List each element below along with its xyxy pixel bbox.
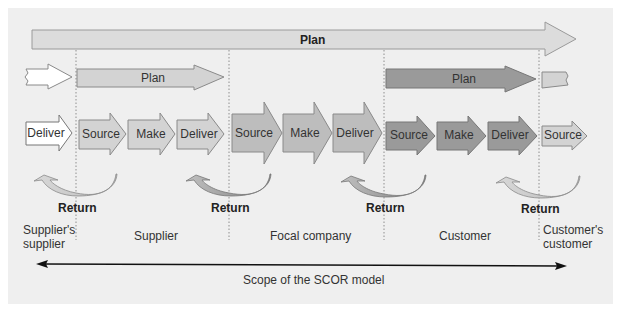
top-plan-label: Plan	[300, 33, 325, 47]
zone-label-suppliers-supplier: Supplier's	[23, 223, 75, 237]
plan-stub-right	[542, 72, 568, 88]
svg-text:Plan: Plan	[452, 72, 476, 86]
zone-label-customers-customer: Customer's	[543, 223, 603, 237]
svg-text:Source: Source	[235, 126, 273, 140]
scope-label: Scope of the SCOR model	[243, 273, 384, 287]
svg-text:Deliver: Deliver	[27, 126, 64, 140]
diagram-background	[8, 8, 613, 304]
svg-text:Make: Make	[444, 128, 474, 142]
svg-text:customer: customer	[543, 237, 592, 251]
svg-text:Deliver: Deliver	[180, 127, 217, 141]
zone-label-focal-company: Focal company	[270, 229, 351, 243]
svg-text:Deliver: Deliver	[336, 126, 373, 140]
svg-text:Deliver: Deliver	[491, 128, 528, 142]
zone-label-supplier: Supplier	[134, 229, 178, 243]
svg-text:Make: Make	[290, 126, 320, 140]
plan-arrow-supplier: Plan	[77, 65, 224, 90]
svg-text:Return: Return	[521, 202, 560, 216]
svg-text:Return: Return	[58, 201, 97, 215]
svg-text:Source: Source	[82, 127, 120, 141]
svg-text:Return: Return	[211, 201, 250, 215]
svg-text:supplier: supplier	[23, 237, 65, 251]
plan-arrow-customer: Plan	[386, 66, 536, 92]
svg-text:Make: Make	[136, 127, 166, 141]
zone-label-customer: Customer	[439, 229, 491, 243]
scor-diagram: Plan Plan Plan Deliver Source Make Deliv…	[0, 0, 623, 313]
svg-text:Plan: Plan	[141, 71, 165, 85]
svg-text:Source: Source	[390, 128, 428, 142]
svg-text:Return: Return	[366, 201, 405, 215]
svg-text:Source: Source	[544, 128, 582, 142]
